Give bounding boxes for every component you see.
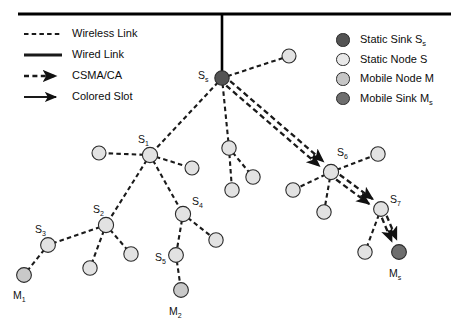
node-label-s3: S3	[35, 224, 46, 237]
node-n_r3	[286, 183, 300, 197]
legend-label-mobile-node: Mobile Node M	[360, 73, 434, 84]
csma-ca-arrow	[382, 218, 392, 242]
wireless-link-edge	[104, 153, 143, 155]
wireless-link-edge	[367, 215, 379, 247]
legend-left-markers	[24, 34, 62, 97]
node-label-m2: M2	[169, 306, 182, 319]
node-n_r5	[358, 245, 372, 259]
node-label-s2: S2	[93, 204, 104, 217]
legend-label-wireless-link: Wireless Link	[72, 28, 137, 39]
wireless-link-edge	[177, 261, 180, 284]
legend-label-colored-slot: Colored Slot	[72, 91, 133, 102]
legend-swatch-static-node	[336, 53, 349, 66]
node-m2	[174, 283, 189, 298]
node-n_b1	[83, 261, 97, 275]
legend-label-csma-ca: CSMA/CA	[72, 70, 122, 81]
node-n_r2	[371, 147, 385, 161]
wireless-link-edge	[109, 160, 147, 220]
node-m1	[17, 268, 32, 283]
wireless-link-edge	[156, 157, 187, 167]
node-n_b3	[209, 233, 223, 247]
wireless-link-edge	[154, 82, 218, 150]
node-s3	[41, 238, 56, 253]
node-label-s4: S4	[192, 196, 203, 209]
wireless-link-edge	[28, 250, 45, 271]
network-topology-figure: Wireless LinkWired LinkCSMA/CAColored Sl…	[0, 0, 454, 327]
node-label-s7: S7	[390, 194, 401, 207]
wireless-link-edge	[188, 218, 212, 237]
legend-swatch-mobile-node	[336, 72, 349, 85]
legend-label-static-sink: Static Sink Ss	[360, 34, 426, 48]
csma-ca-arrow	[226, 86, 319, 166]
node-n_m2	[246, 170, 260, 184]
csma-ca-arrow	[387, 216, 397, 240]
legend-swatch-static-sink	[336, 33, 349, 46]
node-s7	[374, 202, 389, 217]
wireless-link-edge	[177, 220, 182, 249]
csma-ca-arrow	[230, 81, 323, 161]
wireless-link-edge	[298, 175, 325, 188]
node-label-ms: Ms	[389, 268, 401, 281]
node-ss	[215, 71, 229, 85]
node-s2	[98, 217, 113, 232]
node-s5	[169, 248, 184, 263]
node-ms	[392, 245, 407, 260]
wireless-link-edge	[110, 230, 127, 250]
node-n_r4	[317, 205, 331, 219]
node-label-s1: S1	[138, 134, 149, 147]
legend-label-static-node: Static Node S	[360, 54, 427, 65]
node-n_tr	[282, 49, 296, 63]
network-nodes	[17, 49, 407, 297]
legend-swatch-mobile-sink	[336, 92, 349, 105]
node-label-s5: S5	[155, 252, 166, 265]
wireless-link-edge	[325, 178, 330, 206]
wireless-link-edge	[227, 58, 283, 77]
node-label-ss: Ss	[198, 70, 209, 83]
legend-label-wired-link: Wired Link	[72, 49, 124, 60]
node-n_m3	[225, 183, 239, 197]
node-s4	[175, 206, 190, 221]
node-n_r1	[185, 161, 199, 175]
node-n_l1	[92, 146, 106, 160]
node-n_m1	[222, 141, 236, 155]
node-n_b2	[124, 247, 138, 261]
node-s6	[323, 164, 338, 179]
wireless-link-edge	[229, 154, 231, 185]
wireless-link-edge	[233, 152, 250, 172]
wireless-link-edge	[54, 227, 101, 243]
node-label-m1: M1	[13, 290, 26, 303]
legend-label-mobile-sink: Mobile Sink Ms	[360, 93, 433, 107]
node-label-s6: S6	[337, 147, 348, 160]
node-s1	[142, 147, 157, 162]
wireless-link-edge	[223, 84, 229, 143]
diagram-canvas	[0, 0, 454, 327]
wireless-link-edge	[153, 160, 180, 208]
wireless-link-edge	[92, 231, 104, 263]
